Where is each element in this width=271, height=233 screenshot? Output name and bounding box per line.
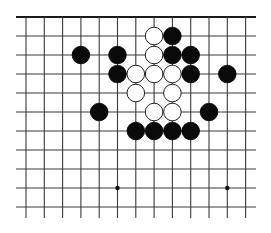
white-stone[interactable] xyxy=(164,103,182,121)
white-stone[interactable] xyxy=(145,65,163,83)
board-grid xyxy=(16,17,256,218)
black-stone[interactable] xyxy=(109,46,127,64)
white-stone[interactable] xyxy=(145,46,163,64)
black-stone[interactable] xyxy=(109,65,127,83)
black-stone[interactable] xyxy=(200,103,218,121)
black-stone[interactable] xyxy=(182,122,200,140)
black-stone[interactable] xyxy=(182,46,200,64)
white-stone[interactable] xyxy=(164,84,182,102)
black-stone[interactable] xyxy=(164,46,182,64)
white-stone[interactable] xyxy=(145,27,163,45)
star-point-icon xyxy=(225,186,229,190)
black-stone[interactable] xyxy=(182,65,200,83)
black-stone[interactable] xyxy=(90,103,108,121)
white-stone[interactable] xyxy=(127,84,145,102)
black-stone[interactable] xyxy=(164,27,182,45)
white-stone[interactable] xyxy=(145,103,163,121)
black-stone[interactable] xyxy=(219,65,237,83)
white-stone[interactable] xyxy=(127,65,145,83)
black-stone[interactable] xyxy=(72,46,90,64)
go-board[interactable] xyxy=(0,0,271,233)
black-stone[interactable] xyxy=(127,122,145,140)
black-stone[interactable] xyxy=(164,122,182,140)
black-stone[interactable] xyxy=(145,122,163,140)
star-point-icon xyxy=(115,186,119,190)
white-stone[interactable] xyxy=(164,65,182,83)
